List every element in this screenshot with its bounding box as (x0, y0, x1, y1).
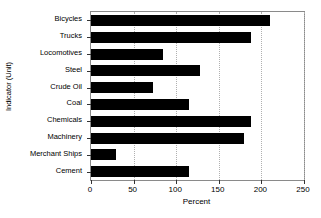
bar (91, 65, 200, 76)
y-axis-tick-label: Machinery (47, 132, 82, 142)
y-axis-tick-mark (87, 155, 91, 156)
bar (91, 82, 153, 93)
x-axis-label: Percent (90, 197, 303, 206)
x-axis-tick-label: 50 (118, 185, 148, 194)
y-axis-tick-label: Bicycles (54, 14, 82, 24)
y-axis-tick-mark (87, 71, 91, 72)
bar (91, 133, 244, 144)
y-axis-tick-labels: BicyclesTrucksLocomotivesSteelCrude OilC… (0, 11, 86, 179)
y-axis-tick-mark (87, 54, 91, 55)
x-axis-tick-mark (261, 180, 262, 184)
x-axis-tick-mark (219, 180, 220, 184)
bar (91, 166, 189, 177)
bar (91, 32, 251, 43)
y-axis-tick-label: Crude Oil (50, 82, 82, 92)
chart-title-clipped (0, 0, 321, 7)
y-axis-tick-mark (87, 37, 91, 38)
y-axis-tick-mark (87, 172, 91, 173)
x-axis-tick-label: 200 (245, 185, 275, 194)
x-axis-tick-label: 0 (75, 185, 105, 194)
x-axis-tick-mark (134, 180, 135, 184)
x-axis-tick-mark (304, 180, 305, 184)
x-axis-tick-label: 250 (288, 185, 318, 194)
bar (91, 49, 163, 60)
bar-chart-figure: Indicator (Unit) BicyclesTrucksLocomotiv… (0, 0, 321, 218)
y-axis-tick-label: Chemicals (47, 115, 82, 125)
x-axis-tick-mark (91, 180, 92, 184)
y-axis-tick-label: Trucks (60, 31, 82, 41)
bar (91, 99, 189, 110)
y-axis-tick-mark (87, 88, 91, 89)
x-axis-tick-mark (176, 180, 177, 184)
y-axis-tick-mark (87, 138, 91, 139)
y-axis-tick-mark (87, 104, 91, 105)
y-axis-tick-label: Locomotives (40, 48, 82, 58)
gridline (304, 12, 305, 180)
bar (91, 15, 270, 26)
x-axis-tick-label: 100 (160, 185, 190, 194)
plot-area (90, 11, 305, 181)
x-axis-tick-labels: 050100150200250 (0, 185, 321, 197)
y-axis-tick-label: Cement (56, 166, 82, 176)
y-axis-tick-mark (87, 121, 91, 122)
x-axis-tick-label: 150 (203, 185, 233, 194)
bar (91, 149, 116, 160)
bar (91, 116, 251, 127)
y-axis-tick-label: Coal (67, 98, 82, 108)
gridline (261, 12, 262, 180)
y-axis-tick-label: Steel (65, 65, 82, 75)
y-axis-tick-mark (87, 20, 91, 21)
y-axis-tick-label: Merchant Ships (30, 149, 82, 159)
